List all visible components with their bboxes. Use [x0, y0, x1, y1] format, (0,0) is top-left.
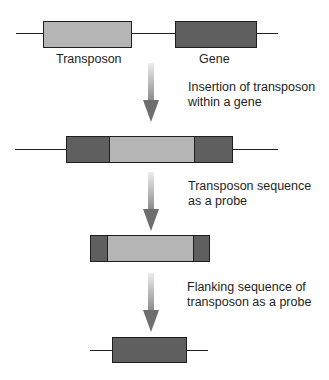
flank-right-segment: [193, 236, 209, 261]
gene-right-segment: [194, 137, 232, 162]
transposon-box: [43, 21, 132, 48]
fragment-box: [90, 235, 210, 262]
gene-left-segment: [67, 137, 109, 162]
step-2-line-2: as a probe: [188, 194, 311, 209]
down-arrow-icon: [143, 63, 159, 123]
transposon-segment: [109, 137, 194, 162]
step-2-line-1: Transposon sequence: [188, 179, 311, 194]
transposon-label: Transposon: [56, 52, 122, 66]
down-arrow-icon: [143, 172, 159, 232]
step-1-line-1: Insertion of transposon: [188, 80, 315, 95]
gene-box: [175, 21, 257, 48]
transposon-segment: [107, 236, 193, 261]
step-3-line-2: transposon as a probe: [187, 295, 311, 310]
down-arrow-icon: [143, 273, 159, 333]
step-2-text: Transposon sequence as a probe: [188, 179, 311, 209]
flank-left-segment: [91, 236, 107, 261]
interrupted-gene-box: [66, 136, 233, 163]
gene-label: Gene: [199, 52, 230, 66]
step-1-text: Insertion of transposon within a gene: [188, 80, 315, 110]
step-1-line-2: within a gene: [188, 95, 315, 110]
gene-box: [112, 337, 187, 363]
step-3-line-1: Flanking sequence of: [187, 280, 311, 295]
step-3-text: Flanking sequence of transposon as a pro…: [187, 280, 311, 310]
